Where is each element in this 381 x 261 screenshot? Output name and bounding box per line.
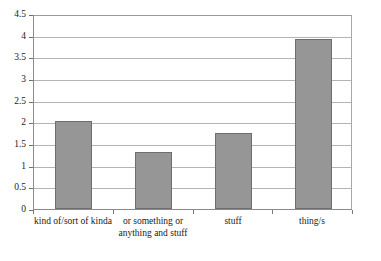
y-tick-mark xyxy=(29,167,33,168)
bar xyxy=(135,152,172,209)
y-tick-mark xyxy=(29,37,33,38)
x-axis-labels: kind of/sort of kindaor something or any… xyxy=(33,216,352,261)
x-tick-mark xyxy=(193,210,194,214)
x-category-label: stuff xyxy=(193,216,273,228)
bar xyxy=(295,39,332,209)
y-tick-label: 1 xyxy=(21,162,26,172)
x-tick-mark xyxy=(352,210,353,214)
bars-group xyxy=(34,15,351,209)
y-tick-mark xyxy=(29,188,33,189)
y-tick-mark xyxy=(29,58,33,59)
plot-area xyxy=(33,15,352,210)
bar xyxy=(215,133,252,209)
x-tick-mark xyxy=(113,210,114,214)
y-tick-label: 0.5 xyxy=(14,184,26,194)
bar xyxy=(55,121,92,209)
y-tick-mark xyxy=(29,145,33,146)
y-tick-mark xyxy=(29,123,33,124)
bar-chart: 00.511.522.533.544.5 kind of/sort of kin… xyxy=(0,0,381,261)
x-axis-ticks xyxy=(33,210,352,215)
x-category-label: or something or anything and stuff xyxy=(113,216,193,239)
y-tick-label: 4 xyxy=(21,32,26,42)
y-tick-label: 2.5 xyxy=(14,97,26,107)
y-axis: 00.511.522.533.544.5 xyxy=(0,0,33,261)
x-category-label: kind of/sort of kinda xyxy=(33,216,113,228)
y-tick-label: 4.5 xyxy=(14,10,26,20)
y-tick-label: 1.5 xyxy=(14,140,26,150)
y-tick-label: 3.5 xyxy=(14,54,26,64)
y-tick-label: 0 xyxy=(21,205,26,215)
y-tick-mark xyxy=(29,102,33,103)
y-tick-label: 3 xyxy=(21,75,26,85)
y-tick-mark xyxy=(29,15,33,16)
x-category-label: thing/s xyxy=(272,216,352,228)
x-tick-mark xyxy=(33,210,34,214)
x-tick-mark xyxy=(272,210,273,214)
y-tick-label: 2 xyxy=(21,119,26,129)
y-tick-mark xyxy=(29,80,33,81)
